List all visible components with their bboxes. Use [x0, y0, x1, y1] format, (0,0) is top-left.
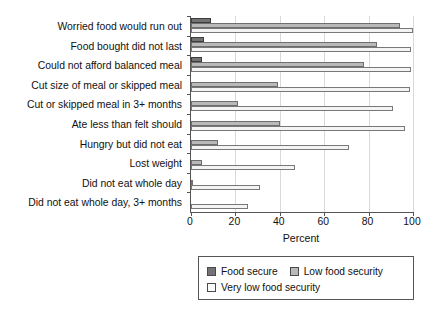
bar [191, 145, 349, 150]
category-label: Lost weight [129, 158, 182, 169]
x-tick-label: 40 [273, 216, 285, 227]
x-tick-label: 60 [317, 216, 329, 227]
legend-label: Low food security [304, 266, 383, 277]
category-label: Could not afford balanced meal [38, 60, 182, 71]
y-axis-tick [187, 153, 191, 154]
legend-row: Food secure Low food security [207, 263, 405, 279]
x-tick-label: 80 [362, 216, 374, 227]
plot-area [190, 16, 413, 213]
legend-label: Very low food security [221, 282, 320, 293]
category-label: Did not eat whole day [82, 178, 182, 189]
bar [191, 67, 411, 72]
legend-item-low-food-security: Low food security [290, 266, 383, 277]
x-axis-title: Percent [190, 232, 412, 244]
legend-item-food-secure: Food secure [207, 266, 278, 277]
legend-swatch-icon [207, 267, 216, 276]
legend-swatch-icon [207, 283, 216, 292]
category-label: Did not eat whole day, 3+ months [28, 197, 182, 208]
y-axis-tick [187, 75, 191, 76]
legend-row: Very low food security [207, 279, 405, 295]
x-tick-label: 20 [229, 216, 241, 227]
category-label: Food bought did not last [71, 41, 183, 52]
bar-chart: Worried food would run out Food bought d… [0, 0, 438, 311]
bar [191, 165, 295, 170]
bar [191, 204, 248, 209]
bar [191, 185, 260, 190]
bar [191, 126, 405, 131]
category-label: Cut size of meal or skipped meal [31, 80, 182, 91]
legend-item-very-low-food-security: Very low food security [207, 282, 320, 293]
legend: Food secure Low food security Very low f… [198, 256, 414, 300]
y-axis-tick [187, 114, 191, 115]
legend-label: Food secure [221, 266, 278, 277]
y-axis-tick [187, 94, 191, 95]
category-label: Ate less than felt should [72, 119, 182, 130]
y-axis-tick [187, 173, 191, 174]
gridline [413, 16, 414, 212]
category-axis-labels: Worried food would run out Food bought d… [0, 16, 186, 212]
bar [191, 87, 410, 92]
category-label: Cut or skipped meal in 3+ months [27, 99, 182, 110]
legend-swatch-icon [290, 267, 299, 276]
bar [191, 106, 393, 111]
bar [191, 47, 411, 52]
y-axis-tick [187, 192, 191, 193]
category-label: Worried food would run out [57, 21, 182, 32]
x-tick-label: 0 [187, 216, 193, 227]
x-tick-label: 100 [403, 216, 420, 227]
y-axis-tick [187, 134, 191, 135]
category-label: Hungry but did not eat [80, 139, 182, 150]
bar [191, 28, 413, 33]
